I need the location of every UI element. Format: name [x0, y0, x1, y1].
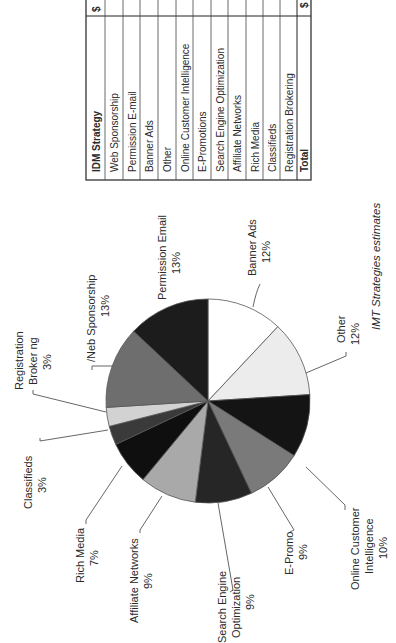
table-row-label: E-Promotions	[197, 111, 208, 172]
label-other: Other	[335, 315, 347, 343]
label-search-engine-optimization-pct: 9%	[244, 594, 256, 610]
label-e-promo: E-Promo	[283, 532, 295, 575]
label-online-customer-intelligence: Online Customer	[349, 507, 361, 590]
table-row-label: Permission E-mail	[127, 91, 138, 172]
rotated-chart-page: IDM Strategy $ Web Sponsorship Permissio…	[0, 0, 396, 643]
label-other-pct: 12%	[349, 323, 361, 345]
label-classifieds: Classifieds	[22, 455, 34, 509]
label-classifieds-pct: 3%	[36, 477, 48, 493]
pie-chart	[106, 299, 310, 503]
table-row-label: Search Engine Optimization	[215, 48, 226, 172]
label-banner-ads: Banner Ads	[246, 219, 258, 276]
label-online-customer-intelligence-pct: 10%	[377, 537, 389, 559]
table-row-label: Affiliate Networks	[232, 95, 243, 172]
table-header-amount: $	[91, 6, 102, 12]
table-row-label: Registration Brokering	[284, 73, 295, 172]
label-rich-media: Rich Media	[74, 527, 86, 583]
table-row-label: Classifieds	[267, 124, 278, 172]
source-note: IMT Strategies estimates	[370, 203, 382, 330]
table-row-label: Web Sponsorship	[109, 93, 120, 172]
label-registration-brokering-2: Broker ng	[27, 337, 39, 385]
label-online-customer-intelligence-2: Intelligence	[363, 518, 375, 574]
table-header-strategy: IDM Strategy	[91, 110, 102, 172]
label-rich-media-pct: 7%	[88, 550, 100, 566]
label-search-engine-optimization: Search Engine	[216, 571, 228, 643]
table-row-label: Banner Ads	[144, 120, 155, 172]
label-web-sponsorship-pct: 13%	[99, 295, 111, 317]
label-registration-brokering-pct: 3%	[41, 354, 53, 370]
label-permission-email: Permission Email	[156, 215, 168, 300]
label-permission-email-pct: 13%	[170, 252, 182, 274]
table-row-label: Other	[162, 146, 173, 172]
strategy-table: IDM Strategy $ Web Sponsorship Permissio…	[86, 0, 311, 180]
label-e-promo-pct: 9%	[297, 544, 309, 560]
label-affiliate-networks: Affiliate Networks	[128, 538, 140, 623]
table-row-label: Online Customer Intelligence	[180, 43, 191, 172]
label-registration-brokering: Registration	[13, 331, 25, 390]
label-banner-ads-pct: 12%	[260, 241, 272, 263]
table-total-label: Total	[299, 149, 310, 172]
table-row-label: Rich Media	[250, 122, 261, 172]
table-total-amount: $	[299, 2, 310, 8]
label-affiliate-networks-pct: 9%	[142, 573, 154, 589]
label-search-engine-optimization-2: Optimization	[230, 577, 242, 638]
label-web-sponsorship: /Neb Sponsorship	[85, 275, 97, 362]
